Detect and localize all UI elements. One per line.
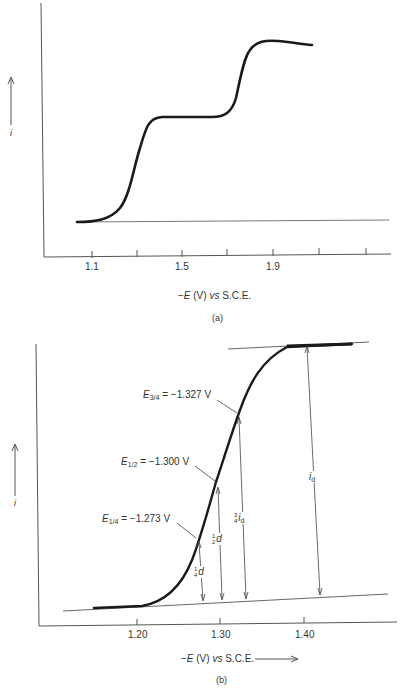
chart-b-caption: (b) bbox=[216, 675, 227, 685]
chart-b-y-arrow bbox=[12, 444, 18, 496]
label-e12: E1/2 = −1.300 V bbox=[121, 456, 189, 468]
chart-b-tick-label-1.20: 1.20 bbox=[128, 629, 147, 640]
chart-a-tick-label-1.9: 1.9 bbox=[266, 261, 280, 272]
chart-a-caption: (a) bbox=[212, 313, 223, 323]
chart-a-x-axis bbox=[44, 254, 391, 257]
chart-b-tick-label-1.30: 1.30 bbox=[211, 629, 230, 640]
chart-a-tick-label-1.5: 1.5 bbox=[175, 261, 189, 272]
chart-b-tick-label-1.40: 1.40 bbox=[295, 629, 314, 640]
label-id: id bbox=[309, 471, 315, 483]
chart-a-curve bbox=[77, 41, 312, 222]
chart-b-x-axis bbox=[39, 622, 397, 626]
label-three-quarter-id: 34id bbox=[234, 512, 244, 524]
chart-a-x-label: −E (V) vs S.C.E. bbox=[178, 290, 251, 301]
chart-b-x-label: −E (V) vs S.C.E. bbox=[181, 653, 254, 664]
chart-a-tick-label-1.1: 1.1 bbox=[85, 261, 99, 272]
chart-a-y-arrow bbox=[8, 77, 14, 125]
chart-b-arrows bbox=[197, 346, 322, 601]
label-quarter-d: 14d bbox=[194, 566, 204, 578]
label-e34: E3/4 = −1.327 V bbox=[143, 389, 211, 401]
chart-b-y-axis bbox=[36, 344, 39, 626]
chart-b-y-label: i bbox=[14, 498, 16, 508]
label-e14: E1/4 = −1.273 V bbox=[102, 513, 170, 525]
chart-a-plot bbox=[0, 0, 411, 692]
chart-a-y-axis bbox=[41, 3, 44, 257]
chart-a-y-label: i bbox=[10, 128, 12, 138]
chart-a-baseline bbox=[77, 220, 389, 222]
label-half-d: 12d bbox=[212, 533, 222, 545]
chart-b-x-label-arrow bbox=[255, 656, 298, 662]
